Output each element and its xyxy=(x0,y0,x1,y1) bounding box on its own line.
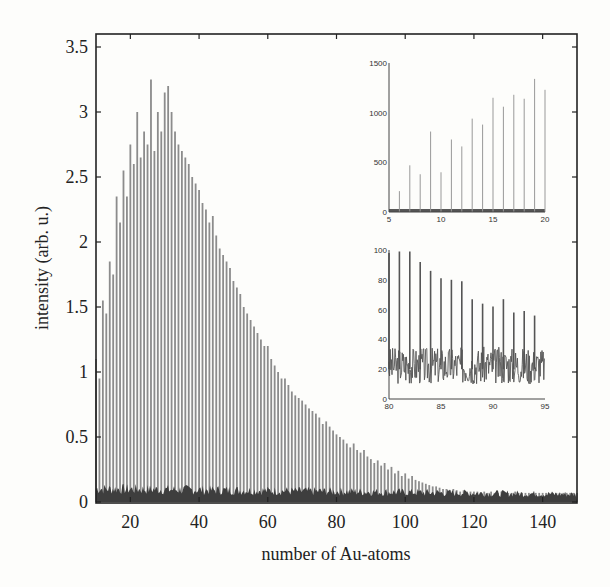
y-tick-label: 1 xyxy=(79,362,88,382)
bar xyxy=(174,132,176,503)
bar xyxy=(312,411,314,502)
bar xyxy=(154,151,156,502)
y-tick-label: 1.5 xyxy=(66,297,89,317)
bar xyxy=(301,401,303,502)
y-tick-label: 0.5 xyxy=(66,427,89,447)
inset-y-tick-label: 1000 xyxy=(369,109,387,118)
inset-y-tick-label: 100 xyxy=(374,246,388,255)
x-tick-label: 80 xyxy=(328,512,346,532)
inset-x-tick-label: 10 xyxy=(437,215,446,224)
bar xyxy=(212,216,214,502)
inset-x-tick-label: 85 xyxy=(437,402,446,411)
bar xyxy=(188,164,190,502)
y-tick-label: 2.5 xyxy=(66,167,89,187)
bar xyxy=(160,132,162,503)
bar xyxy=(105,314,107,503)
bar xyxy=(298,398,300,502)
bar xyxy=(184,158,186,503)
bar xyxy=(191,177,193,502)
bar xyxy=(270,359,272,502)
bar xyxy=(267,346,269,502)
bar xyxy=(205,210,207,503)
bar xyxy=(281,379,283,503)
bar xyxy=(257,333,259,502)
inset-x-tick-label: 90 xyxy=(489,402,498,411)
bar xyxy=(178,145,180,503)
bar xyxy=(246,314,248,503)
inset-x-tick-label: 20 xyxy=(541,215,550,224)
y-tick-label: 2 xyxy=(79,232,88,252)
bar xyxy=(198,190,200,502)
chart: 00.511.522.533.5 20406080100120140 numbe… xyxy=(0,0,610,587)
bar xyxy=(253,327,255,503)
inset-y-tick-label: 40 xyxy=(378,335,387,344)
bar xyxy=(233,281,235,502)
bar xyxy=(288,385,290,502)
bar xyxy=(222,255,224,502)
bar xyxy=(277,372,279,502)
bar xyxy=(99,379,101,503)
bar xyxy=(305,405,307,503)
x-tick-label: 120 xyxy=(460,512,487,532)
bar xyxy=(315,414,317,502)
y-tick-label: 0 xyxy=(79,492,88,512)
bar xyxy=(129,145,131,503)
bar xyxy=(116,197,118,503)
x-tick-label: 20 xyxy=(121,512,139,532)
x-tick-label: 40 xyxy=(190,512,208,532)
y-tick-label: 3 xyxy=(79,102,88,122)
bar xyxy=(229,268,231,502)
inset-bottom: 02040608010080859095 xyxy=(374,246,550,411)
x-tick-label: 100 xyxy=(392,512,419,532)
x-axis-label: number of Au-atoms xyxy=(262,544,411,564)
bar xyxy=(140,158,142,503)
bar xyxy=(219,249,221,503)
bar xyxy=(123,171,125,503)
x-axis-ticks: 20406080100120140 xyxy=(121,34,556,532)
bar xyxy=(342,440,344,502)
y-tick-label: 3.5 xyxy=(66,37,89,57)
inset-x-tick-label: 95 xyxy=(541,402,550,411)
bar xyxy=(239,294,241,502)
inset-x-tick-label: 15 xyxy=(489,215,498,224)
bar xyxy=(243,307,245,502)
inset-y-tick-label: 20 xyxy=(378,365,387,374)
bar xyxy=(284,379,286,503)
bar xyxy=(294,395,296,502)
bar xyxy=(226,262,228,503)
bar xyxy=(157,112,159,502)
bar xyxy=(215,236,217,503)
x-tick-label: 140 xyxy=(529,512,556,532)
bar xyxy=(291,392,293,503)
bar xyxy=(171,112,173,502)
bar xyxy=(136,112,138,502)
inset-y-tick-label: 1500 xyxy=(369,59,387,68)
inset-top: 0500100015005101520 xyxy=(369,59,550,224)
bar xyxy=(143,132,145,503)
bar xyxy=(164,93,166,503)
inset-y-tick-label: 60 xyxy=(378,306,387,315)
bar xyxy=(260,340,262,503)
bar xyxy=(150,80,152,503)
main-bars xyxy=(95,80,578,503)
inset-x-tick-label: 5 xyxy=(387,215,392,224)
bar xyxy=(208,223,210,503)
bar xyxy=(147,145,149,503)
bar xyxy=(133,164,135,502)
bar xyxy=(202,203,204,502)
bar xyxy=(325,421,327,502)
bar xyxy=(112,275,114,503)
bar xyxy=(102,301,104,503)
y-axis-label: intensity (arb. u.) xyxy=(32,206,53,330)
bar xyxy=(126,197,128,503)
x-tick-label: 60 xyxy=(259,512,277,532)
bar xyxy=(167,86,169,502)
bar xyxy=(274,366,276,503)
bar xyxy=(236,288,238,503)
bar xyxy=(109,262,111,503)
bar xyxy=(181,151,183,502)
y-axis-ticks: 00.511.522.533.5 xyxy=(66,37,578,512)
bar xyxy=(195,184,197,503)
inset-y-tick-label: 500 xyxy=(374,158,388,167)
bar xyxy=(263,346,265,502)
